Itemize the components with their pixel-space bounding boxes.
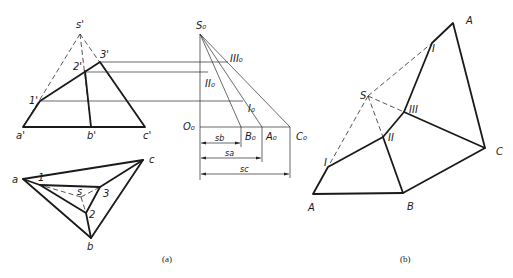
label-o0: O₀ (183, 121, 195, 132)
label-s0: S₀ (196, 20, 206, 31)
label-iii0: III₀ (230, 53, 243, 64)
label-II: II (388, 132, 394, 143)
caption-a: (a) (162, 254, 172, 264)
label-s: s (77, 186, 82, 197)
edge-2b (85, 71, 91, 127)
label-A-top: A (465, 15, 473, 26)
label-b: b (87, 241, 93, 252)
label-c: c (149, 154, 155, 165)
dim-label-sa: sa (225, 149, 234, 158)
fold-iii-c (404, 112, 485, 148)
fold-ii-b (383, 137, 403, 193)
label-A-bottom: A (307, 202, 315, 213)
label-I-top: I (432, 43, 435, 54)
label-S: S (360, 90, 367, 101)
top-view: a c b 1 s 3 2 (12, 154, 155, 252)
label-I-bottom: I (324, 157, 327, 168)
caption-b: (b) (400, 254, 411, 264)
label-c0: C₀ (296, 131, 307, 142)
true-length-diagram: S₀ III₀ II₀ I₀ O₀ B₀ A₀ C₀ sb sa sc (183, 20, 307, 180)
label-2: 2 (89, 209, 95, 220)
label-i0: I₀ (248, 103, 255, 114)
development-outline (313, 23, 485, 194)
label-3: 3 (103, 188, 109, 199)
label-3-prime: 3' (100, 49, 109, 60)
label-2-prime: 2' (73, 61, 82, 72)
label-a0: A₀ (265, 131, 277, 142)
label-c-prime: c' (143, 130, 151, 141)
dim-label-sb: sb (215, 134, 224, 143)
label-C: C (496, 146, 503, 157)
label-III: III (409, 104, 418, 115)
label-s-prime: s' (76, 19, 84, 30)
label-ii0: II₀ (205, 78, 215, 89)
label-1: 1 (38, 172, 44, 183)
label-a: a (12, 174, 18, 185)
label-b0: B₀ (245, 131, 256, 142)
development-view: S A I III II I A B C (307, 15, 503, 213)
label-a-prime: a' (16, 130, 25, 141)
pyramid-development-figure: s' 3' 2' 1' a' b' c' a c b 1 s 3 2 (0, 0, 513, 278)
label-b-prime: b' (87, 130, 96, 141)
dim-label-sc: sc (240, 165, 249, 174)
label-1-prime: 1' (29, 95, 38, 106)
label-B: B (407, 201, 414, 212)
